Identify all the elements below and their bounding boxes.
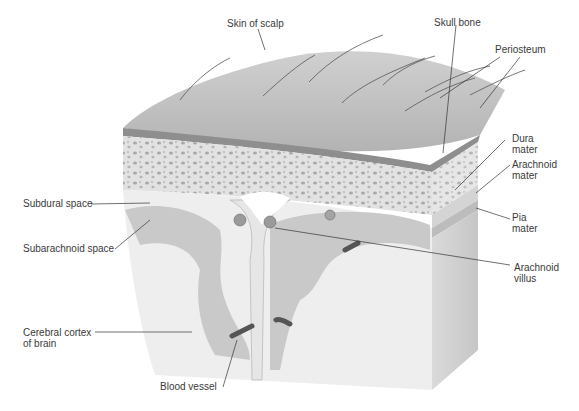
label-skull-bone: Skull bone	[434, 17, 481, 28]
arachnoid-villus-2	[264, 216, 276, 228]
label-skin-of-scalp: Skin of scalp	[227, 18, 284, 29]
label-arachnoid-villus: Arachnoid villus	[514, 262, 559, 284]
label-arachnoid-mater: Arachnoid mater	[512, 159, 557, 181]
arachnoid-villus-3	[325, 210, 335, 220]
label-subdural-space: Subdural space	[23, 198, 93, 209]
label-dura-mater: Dura mater	[512, 133, 538, 155]
label-cerebral-cortex: Cerebral cortex of brain	[23, 327, 91, 349]
label-subarachnoid-space: Subarachnoid space	[23, 243, 114, 254]
label-pia-mater: Pia mater	[512, 212, 538, 234]
meninges-diagram: Skin of scalp Skull bone Periosteum Dura…	[0, 0, 579, 411]
label-blood-vessel: Blood vessel	[160, 381, 217, 392]
label-periosteum: Periosteum	[495, 44, 546, 55]
arachnoid-villus-1	[234, 214, 246, 226]
brain-side	[432, 210, 478, 390]
